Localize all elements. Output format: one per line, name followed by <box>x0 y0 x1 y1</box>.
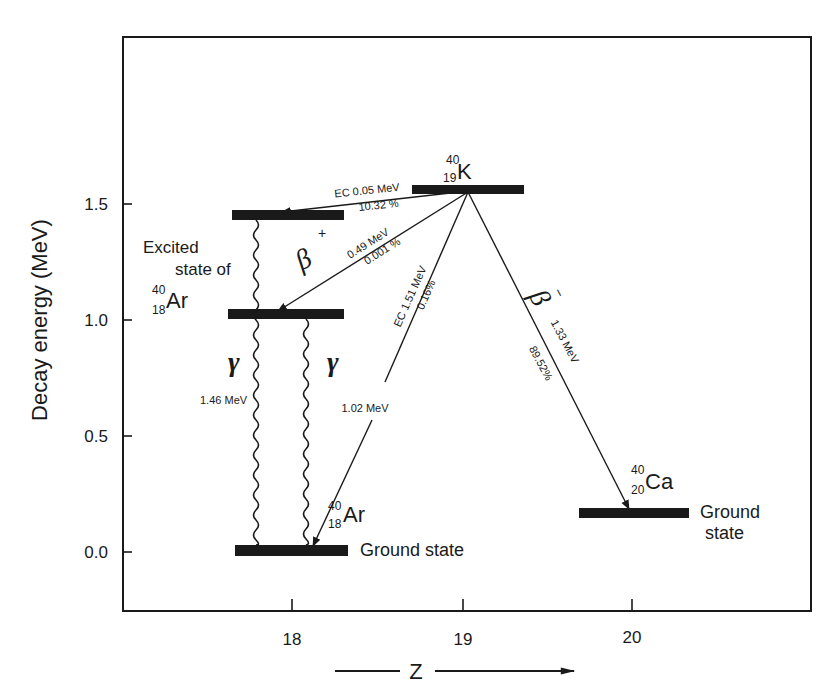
ar-excited-symbol: Ar <box>166 288 188 313</box>
decay-scheme-diagram: 1.5 1.0 0.5 0.0 Decay energy (MeV) 18 19… <box>0 0 821 692</box>
y-tick-1-5: 1.5 <box>84 195 108 214</box>
ca-atomic-number: 20 <box>631 483 645 497</box>
ar-ground-state-label: Ground state <box>360 540 464 560</box>
gamma-wave-1-46 <box>254 220 259 545</box>
ar-excited-atomic: 18 <box>152 303 166 317</box>
transition-beta-minus <box>468 192 629 509</box>
excited-label-line1: Excited <box>143 238 199 257</box>
ca-ground-label-line1: Ground <box>700 502 760 522</box>
x-axis-label: Z <box>409 659 422 684</box>
k-atomic-number: 19 <box>443 171 457 185</box>
y-axis <box>123 204 132 552</box>
ar-ground-symbol: Ar <box>343 502 365 527</box>
gamma1-energy-label: 1.46 MeV <box>200 394 248 406</box>
k-symbol: K <box>457 159 472 184</box>
gamma-symbol-2: γ <box>327 346 339 377</box>
ca-mass-number: 40 <box>631 463 645 477</box>
x-axis <box>292 599 632 611</box>
excited-label-line2: state of <box>175 260 231 279</box>
y-tick-0-5: 0.5 <box>84 427 108 446</box>
beta-minus-branch-label: 89.52% <box>527 344 555 383</box>
y-tick-0-0: 0.0 <box>84 543 108 562</box>
ec1-energy-label: EC 0.05 MeV <box>334 181 401 200</box>
level-ar40-excited <box>228 309 344 319</box>
ec2-extra-energy-label: 1.02 MeV <box>341 402 389 414</box>
x-tick-18: 18 <box>283 630 302 649</box>
gamma-symbol-1: γ <box>228 346 240 377</box>
x-tick-20: 20 <box>623 628 642 647</box>
ca-symbol: Ca <box>645 469 674 494</box>
x-tick-19: 19 <box>454 630 473 649</box>
beta-plus-sign: + <box>318 225 326 241</box>
ca-ground-label-line2: state <box>705 523 744 543</box>
y-tick-1-0: 1.0 <box>84 311 108 330</box>
beta-plus-symbol: β <box>289 242 317 276</box>
level-ar40-ground <box>235 545 348 556</box>
transition-ec-1-51-lower <box>313 420 372 546</box>
gamma-wave-excited <box>304 319 309 545</box>
ar-ground-atomic: 18 <box>328 517 342 531</box>
ar-excited-mass: 40 <box>152 283 166 297</box>
level-ca40-ground <box>579 508 689 518</box>
ec1-branch-label: 10.32 % <box>358 197 400 213</box>
beta-minus-energy-label: 1.33 MeV <box>549 318 582 366</box>
beta-minus-symbol: β <box>523 283 557 311</box>
y-axis-label: Decay energy (MeV) <box>27 219 52 421</box>
